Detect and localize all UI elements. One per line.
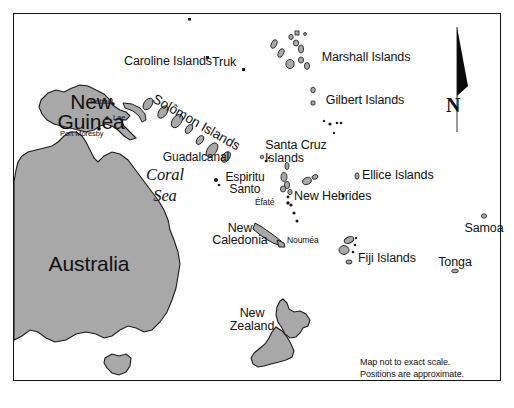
ellice-islands-label: Ellice Islands	[362, 169, 434, 183]
new-caledonia-label-line2: Caledonia	[212, 234, 267, 248]
fiji-islands-shapes	[339, 235, 355, 264]
fiji-islands-label: Fiji Islands	[358, 252, 416, 266]
noumea-label: Nouméa	[287, 236, 319, 245]
guadalcanal-label: Guadalcanal	[163, 151, 229, 164]
gilbert-islands-label: Gilbert Islands	[326, 94, 404, 108]
rabaul-label: Rabaul	[90, 98, 113, 106]
port-moresby-label: Port Moresby	[60, 130, 103, 138]
santa-cruz-islands-label-line2: Islands	[265, 152, 304, 166]
compass-north-label: N	[446, 95, 460, 117]
ellice-islands-shape	[355, 173, 359, 179]
australia-label: Australia	[49, 253, 130, 276]
efate-dot	[286, 201, 289, 204]
australia-shape	[14, 132, 180, 342]
tasmania-shape	[104, 354, 131, 375]
coral-sea-label-line1: Coral	[146, 166, 184, 184]
scale-disclaimer-line2: Positions are approximate.	[360, 368, 464, 381]
gilbert-islands-shapes	[311, 87, 315, 105]
marshall-islands-shapes	[270, 31, 310, 69]
tonga-shape	[452, 269, 459, 273]
truk-label: Truk	[212, 56, 236, 70]
new-zealand-label-line2: Zealand	[230, 320, 274, 334]
map-figure: Caroline Islands Truk Marshall Islands G…	[0, 0, 514, 408]
new-hebrides-label: New Hebrides	[294, 190, 371, 204]
marshall-islands-label: Marshall Islands	[322, 51, 411, 65]
tonga-label: Tonga	[438, 256, 472, 270]
samoa-shape	[481, 214, 486, 218]
espiritu-santo-shapes	[214, 178, 220, 186]
phoenix-dots	[323, 120, 343, 134]
caroline-islands-label: Caroline Islands	[124, 55, 212, 69]
lae-label: Lae	[113, 114, 125, 122]
efate-label: Éfaté	[255, 198, 274, 207]
coral-sea-label-line2: Sea	[153, 187, 177, 205]
espiritu-santo-label-line2: Santo	[230, 183, 261, 196]
samoa-label: Samoa	[464, 222, 503, 236]
